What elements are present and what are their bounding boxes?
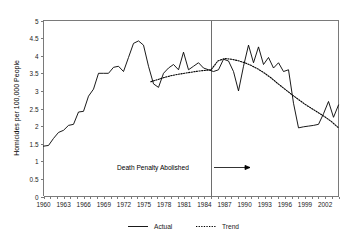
y-axis-ticks: 00.511.522.533.544.55 [30, 18, 44, 201]
y-tick-label: 1.5 [30, 141, 39, 148]
legend: Actual Trend [128, 223, 239, 230]
x-tick-label: 1966 [77, 201, 92, 208]
chart-container: Homicides per 100,000 People 00.511.522.… [0, 0, 353, 241]
x-tick-label: 1975 [137, 201, 152, 208]
y-tick-label: 5 [35, 18, 39, 25]
x-tick-label: 1993 [258, 201, 273, 208]
x-tick-label: 1978 [157, 201, 172, 208]
x-tick-label: 1981 [177, 201, 192, 208]
y-tick-label: 0.5 [30, 176, 39, 183]
x-tick-label: 1996 [278, 201, 293, 208]
x-tick-label: 1963 [57, 201, 72, 208]
x-axis-ticks: 1960196319661969197219751978198119841987… [36, 197, 339, 209]
annotation-group: Death Penalty Abolished [117, 164, 250, 172]
annotation-label-death-penalty-abolished: Death Penalty Abolished [117, 164, 189, 172]
y-tick-label: 4.5 [30, 35, 39, 42]
y-axis-title: Homicides per 100,000 People [13, 60, 21, 156]
y-tick-label: 3.5 [30, 70, 39, 77]
homicide-rate-line-chart: Homicides per 100,000 People 00.511.522.… [0, 0, 353, 241]
legend-label-trend: Trend [222, 223, 239, 230]
x-tick-label: 1984 [197, 201, 212, 208]
x-tick-label: 1972 [117, 201, 132, 208]
series-line-actual [44, 41, 339, 146]
x-tick-label: 1960 [36, 201, 51, 208]
y-tick-label: 1 [35, 158, 39, 165]
x-tick-label: 1987 [217, 201, 232, 208]
y-tick-label: 0 [35, 194, 39, 201]
y-tick-label: 4 [35, 53, 39, 60]
y-tick-label: 2 [35, 123, 39, 130]
x-tick-label: 1999 [298, 201, 313, 208]
y-tick-label: 2.5 [30, 106, 39, 113]
x-tick-label: 1990 [238, 201, 253, 208]
annotation-arrow-icon [214, 165, 250, 169]
x-tick-label: 2002 [318, 201, 333, 208]
y-tick-label: 3 [35, 88, 39, 95]
y-axis-title-group: Homicides per 100,000 People [13, 60, 21, 156]
legend-label-actual: Actual [154, 223, 173, 230]
x-tick-label: 1969 [97, 201, 112, 208]
